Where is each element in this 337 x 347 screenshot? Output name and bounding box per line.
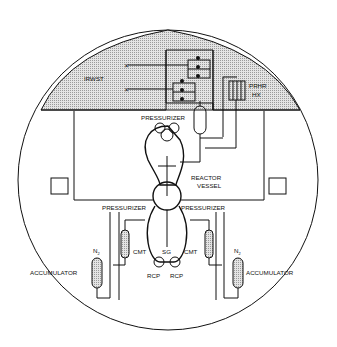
accumulator-right	[233, 258, 243, 288]
accumulator-left-label: ACCUMULATOR	[30, 269, 78, 276]
prhr-label: PRHR	[249, 82, 267, 89]
reactor-label: REACTOR	[191, 174, 222, 181]
check-valve-box-left	[51, 178, 68, 194]
cmt-right	[205, 230, 213, 258]
cmt-right-label: CMT	[184, 248, 198, 255]
n2-left-label: N2	[93, 247, 100, 256]
accumulator-left	[92, 258, 102, 288]
cmt-left-label: CMT	[133, 248, 147, 255]
containment-diagram: ✕ ✕ IRWST PRHR HX PRESSURIZER REACTOR VE…	[0, 0, 337, 347]
accumulator-right-label: ACCUMULATOR	[246, 269, 294, 276]
pressurizer-label-left: PRESSURIZER	[102, 204, 147, 211]
check-valve-box-right	[269, 178, 286, 194]
irwst-label: IRWST	[84, 75, 104, 82]
sparger-icon: ✕	[124, 62, 129, 69]
steam-generator-upper	[145, 126, 183, 185]
pressurizer-label-top: PRESSURIZER	[141, 114, 186, 121]
sparger-icon: ✕	[124, 86, 129, 93]
rcp-left-label: RCP	[147, 272, 160, 279]
pressurizer-label-right: PRESSURIZER	[181, 204, 226, 211]
sg-label: SG	[162, 248, 171, 255]
irwst-tank	[41, 30, 300, 110]
n2-right-label: N2	[234, 247, 241, 256]
cmt-left	[121, 230, 129, 258]
vessel-label: VESSEL	[197, 182, 222, 189]
rcp-right-label: RCP	[170, 272, 183, 279]
hx-label: HX	[252, 91, 261, 98]
